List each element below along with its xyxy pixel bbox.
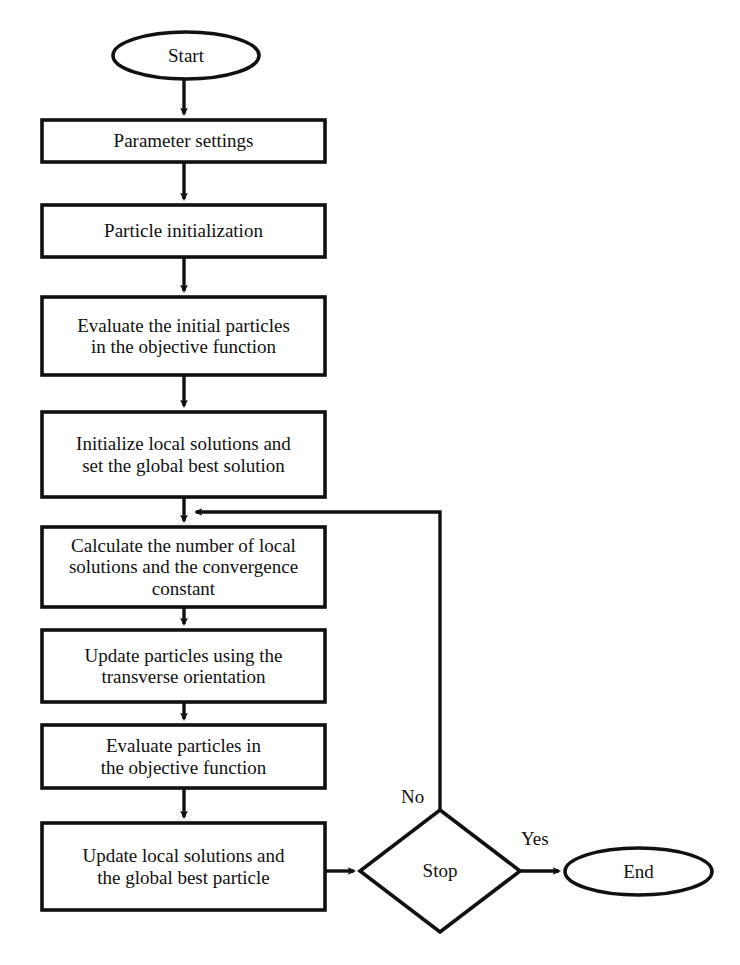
node-update-particles-shape (42, 630, 325, 702)
node-evaluate-particles-shape (42, 725, 325, 788)
node-particle-initialization-shape (42, 205, 325, 257)
node-end-shape (565, 848, 712, 895)
node-update-local-shape (42, 823, 325, 910)
node-calculate-number-shape (42, 527, 325, 607)
node-initialize-local-shape (42, 412, 325, 497)
node-stop-decision-shape (360, 810, 520, 932)
node-evaluate-initial-shape (42, 297, 325, 375)
node-parameter-settings-shape (42, 120, 325, 162)
flowchart-canvas: Start Parameter settings Particle initia… (0, 0, 740, 965)
flowchart-graphics (0, 0, 740, 965)
node-start-shape (113, 32, 259, 79)
